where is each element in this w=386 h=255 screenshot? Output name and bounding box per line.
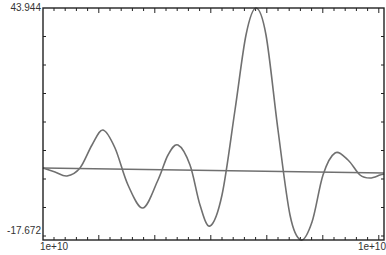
- baseline-series: [43, 168, 384, 173]
- axis-ticks: [43, 8, 384, 240]
- x-axis-end-label: 1e+10: [358, 241, 386, 252]
- y-axis-min-label: -17.672: [7, 225, 41, 236]
- x-axis-start-label: 1e+10: [40, 241, 68, 252]
- plot-frame: [43, 8, 384, 240]
- line-chart: [0, 0, 386, 255]
- signal-series: [43, 8, 384, 240]
- y-axis-max-label: 43.944: [10, 2, 41, 13]
